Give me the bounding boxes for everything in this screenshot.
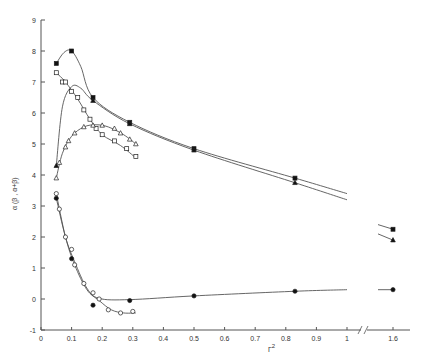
square-open-marker	[112, 139, 116, 143]
triangle-open-marker	[54, 176, 59, 180]
square-open-marker	[100, 133, 104, 137]
x-axis-label: Γ2	[268, 343, 276, 353]
circle-open-marker	[82, 281, 86, 285]
circle-filled-marker	[293, 289, 297, 293]
circle-open-marker	[131, 309, 135, 313]
circle-open-marker	[63, 235, 67, 239]
x-tick-label: 0.5	[189, 335, 199, 342]
circle-open-marker	[70, 247, 74, 251]
circle-open-marker	[97, 297, 101, 301]
square-open-marker	[125, 147, 129, 151]
x-tick-label: 0.8	[281, 335, 291, 342]
data-markers	[54, 49, 395, 315]
square-open-marker	[88, 117, 92, 121]
square-open-marker	[63, 80, 67, 84]
square-filled-marker	[54, 61, 58, 65]
y-tick-label: 1	[32, 265, 36, 272]
triangle-open-marker	[63, 145, 68, 149]
fit-curves	[56, 50, 393, 313]
y-tick-label: -1	[30, 327, 36, 334]
circle-filled-marker	[91, 303, 95, 307]
y-tick-label: 0	[32, 296, 36, 303]
y-tick-label: 9	[32, 17, 36, 24]
square-open-marker	[54, 71, 58, 75]
x-tick-label: 1.6	[388, 335, 398, 342]
circle-open-marker	[118, 311, 122, 315]
axes: -1012345678900.10.20.30.40.50.60.70.80.9…	[30, 17, 410, 343]
y-tick-label: 6	[32, 110, 36, 117]
circle-open-marker	[57, 207, 61, 211]
circle-filled-marker	[128, 298, 132, 302]
triangle-open-marker	[112, 126, 117, 130]
x-tick-label: 1	[345, 335, 349, 342]
square-filled-marker	[293, 176, 297, 180]
x-tick-label: 0.2	[97, 335, 107, 342]
triangle-open-marker	[118, 131, 123, 135]
circle-filled-marker	[391, 288, 395, 292]
circle-open-marker	[106, 308, 110, 312]
triangle-open-marker	[57, 160, 62, 164]
y-tick-label: 8	[32, 48, 36, 55]
x-tick-label: 0.4	[159, 335, 169, 342]
x-tick-label: 0.6	[220, 335, 230, 342]
circle-filled-marker	[192, 294, 196, 298]
x-tick-label: 0.1	[67, 335, 77, 342]
y-tick-label: 2	[32, 234, 36, 241]
square-open-marker	[76, 96, 80, 100]
square-open-marker	[70, 89, 74, 93]
square-filled-marker	[70, 49, 74, 53]
circle-filled-marker	[54, 196, 58, 200]
triangle-open-marker	[66, 138, 71, 142]
circle-open-marker	[54, 192, 58, 196]
y-axis-label: α (β , α+β)	[11, 177, 19, 210]
circle-open-marker	[73, 263, 77, 267]
y-tick-label: 7	[32, 79, 36, 86]
x-tick-label: 0.3	[128, 335, 138, 342]
square-open-marker	[82, 108, 86, 112]
x-tick-label: 0.7	[250, 335, 260, 342]
x-tick-label: 0	[39, 335, 43, 342]
circle-open-marker	[91, 291, 95, 295]
y-tick-label: 3	[32, 203, 36, 210]
y-tick-label: 4	[32, 172, 36, 179]
circle-filled-marker	[70, 257, 74, 261]
y-tick-label: 5	[32, 141, 36, 148]
square-filled-marker	[391, 227, 395, 231]
chart: -1012345678900.10.20.30.40.50.60.70.80.9…	[0, 0, 423, 362]
x-tick-label: 0.9	[312, 335, 322, 342]
square-open-marker	[134, 154, 138, 158]
